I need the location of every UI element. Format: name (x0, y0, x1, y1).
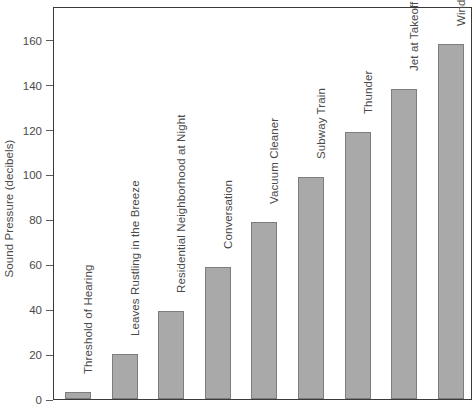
bar-label: Wind Tunnnel (455, 0, 467, 26)
y-tick: 160 (23, 34, 53, 48)
bar-group: Threshold of Hearing (65, 8, 91, 399)
y-tick-label: 100 (23, 169, 42, 181)
y-tick-label: 80 (29, 214, 42, 226)
y-tick-label: 20 (29, 349, 42, 361)
bar (65, 392, 91, 399)
y-tick-mark (46, 220, 53, 221)
bar (438, 44, 464, 399)
y-tick: 80 (29, 213, 53, 227)
bar-label: Thunder (362, 70, 374, 114)
y-tick: 20 (29, 348, 53, 362)
bar (391, 89, 417, 399)
bar-label: Conversation (222, 180, 234, 249)
y-tick-mark (46, 310, 53, 311)
y-tick-label: 160 (23, 35, 42, 47)
bar (345, 132, 371, 399)
y-tick-label: 140 (23, 80, 42, 92)
bar (251, 222, 277, 399)
y-tick: 0 (36, 393, 53, 407)
y-tick-mark (46, 85, 53, 86)
y-tick-mark (46, 355, 53, 356)
y-tick: 60 (29, 258, 53, 272)
y-tick-mark (46, 130, 53, 131)
y-axis-ticks: 020406080100120140160 (18, 0, 53, 417)
y-tick: 120 (23, 124, 53, 138)
bar-label: Residential Neighborhood at Night (175, 115, 187, 293)
bar (205, 267, 231, 399)
bar-group: Vacuum Cleaner (251, 8, 277, 399)
y-tick-label: 60 (29, 259, 42, 271)
bars-layer: Threshold of HearingLeaves Rustling in t… (54, 8, 471, 399)
bar-label: Vacuum Cleaner (268, 117, 280, 203)
bar-label: Leaves Rustling in the Breeze (129, 180, 141, 336)
bar (298, 177, 324, 399)
bar (112, 354, 138, 399)
sound-pressure-bar-chart: Sound Pressure (decibels) 02040608010012… (0, 0, 476, 417)
bar-label: Jet at Takeoff (408, 2, 420, 71)
bar-label: Subway Train (315, 88, 327, 159)
y-tick-label: 40 (29, 304, 42, 316)
y-tick: 140 (23, 79, 53, 93)
bar-group: Wind Tunnnel (438, 8, 464, 399)
bar (158, 311, 184, 399)
y-tick: 40 (29, 303, 53, 317)
y-tick-mark (46, 40, 53, 41)
y-tick: 100 (23, 168, 53, 182)
plot-area: Threshold of HearingLeaves Rustling in t… (53, 7, 472, 400)
y-axis-title: Sound Pressure (decibels) (0, 0, 18, 417)
bar-group: Thunder (345, 8, 371, 399)
bar-group: Conversation (205, 8, 231, 399)
bar-group: Leaves Rustling in the Breeze (112, 8, 138, 399)
y-tick-label: 120 (23, 125, 42, 137)
y-tick-label: 0 (36, 394, 42, 406)
bar-label: Threshold of Hearing (82, 265, 94, 374)
bar-group: Residential Neighborhood at Night (158, 8, 184, 399)
bar-group: Subway Train (298, 8, 324, 399)
bar-group: Jet at Takeoff (391, 8, 417, 399)
y-tick-mark (46, 265, 53, 266)
y-tick-mark (46, 400, 53, 401)
y-tick-mark (46, 175, 53, 176)
